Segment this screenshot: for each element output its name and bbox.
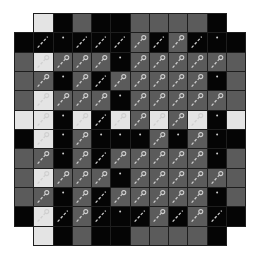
board-cell-gray[interactable] xyxy=(187,187,207,207)
board-cell-gray[interactable] xyxy=(14,148,34,168)
board-cell-black[interactable] xyxy=(53,187,73,207)
board-cell-gray[interactable] xyxy=(91,90,111,110)
board-cell-gray[interactable] xyxy=(72,187,92,207)
board-cell-gray[interactable] xyxy=(149,13,169,33)
board-cell-gray[interactable] xyxy=(130,148,150,168)
board-cell-black[interactable] xyxy=(110,168,130,188)
board-cell-black[interactable] xyxy=(53,110,73,130)
board-cell-gray[interactable] xyxy=(130,52,150,72)
board-cell-black[interactable] xyxy=(91,148,111,168)
board-cell-gray[interactable] xyxy=(149,206,169,226)
board-cell-black[interactable] xyxy=(33,32,53,52)
board-cell-black[interactable] xyxy=(207,71,227,91)
board-cell-black[interactable] xyxy=(207,226,227,246)
board-cell-light[interactable] xyxy=(110,110,130,130)
board-cell-gray[interactable] xyxy=(149,129,169,149)
board-cell-black[interactable] xyxy=(53,71,73,91)
board-cell-gray[interactable] xyxy=(53,168,73,188)
board-cell-black[interactable] xyxy=(91,187,111,207)
board-cell-gray[interactable] xyxy=(168,168,188,188)
board-cell-black[interactable] xyxy=(130,206,150,226)
board-cell-black[interactable] xyxy=(207,206,227,226)
board-cell-black[interactable] xyxy=(53,129,73,149)
board-cell-gray[interactable] xyxy=(187,52,207,72)
board-cell-light[interactable] xyxy=(33,110,53,130)
board-cell-black[interactable] xyxy=(110,226,130,246)
board-cell-black[interactable] xyxy=(110,90,130,110)
board-cell-gray[interactable] xyxy=(187,129,207,149)
board-cell-black[interactable] xyxy=(149,32,169,52)
board-cell-black[interactable] xyxy=(91,129,111,149)
board-cell-gray[interactable] xyxy=(149,52,169,72)
board-cell-light[interactable] xyxy=(187,110,207,130)
board-cell-black[interactable] xyxy=(14,32,34,52)
board-cell-gray[interactable] xyxy=(14,168,34,188)
board-cell-gray[interactable] xyxy=(33,187,53,207)
board-cell-gray[interactable] xyxy=(149,187,169,207)
board-cell-gray[interactable] xyxy=(226,187,246,207)
board-cell-gray[interactable] xyxy=(187,71,207,91)
board-cell-gray[interactable] xyxy=(33,71,53,91)
board-cell-gray[interactable] xyxy=(130,13,150,33)
board-cell-black[interactable] xyxy=(53,148,73,168)
board-cell-gray[interactable] xyxy=(72,90,92,110)
board-cell-black[interactable] xyxy=(110,129,130,149)
board-cell-light[interactable] xyxy=(149,110,169,130)
board-cell-black[interactable] xyxy=(91,13,111,33)
board-cell-gray[interactable] xyxy=(168,148,188,168)
board-cell-gray[interactable] xyxy=(14,187,34,207)
board-cell-black[interactable] xyxy=(91,32,111,52)
board-cell-gray[interactable] xyxy=(91,52,111,72)
board-cell-gray[interactable] xyxy=(149,90,169,110)
board-cell-gray[interactable] xyxy=(187,226,207,246)
board-cell-gray[interactable] xyxy=(33,148,53,168)
board-cell-gray[interactable] xyxy=(72,129,92,149)
board-cell-black[interactable] xyxy=(53,32,73,52)
board-cell-gray[interactable] xyxy=(149,148,169,168)
board-cell-gray[interactable] xyxy=(14,90,34,110)
board-cell-gray[interactable] xyxy=(110,71,130,91)
board-cell-black[interactable] xyxy=(207,187,227,207)
board-cell-gray[interactable] xyxy=(149,226,169,246)
board-cell-gray[interactable] xyxy=(149,168,169,188)
board-cell-gray[interactable] xyxy=(168,90,188,110)
board-cell-gray[interactable] xyxy=(226,168,246,188)
board-cell-light[interactable] xyxy=(226,110,246,130)
board-cell-gray[interactable] xyxy=(14,52,34,72)
board-cell-gray[interactable] xyxy=(207,52,227,72)
board-cell-light[interactable] xyxy=(33,226,53,246)
board-cell-gray[interactable] xyxy=(168,226,188,246)
board-cell-gray[interactable] xyxy=(168,187,188,207)
board-cell-gray[interactable] xyxy=(130,32,150,52)
board-cell-gray[interactable] xyxy=(72,13,92,33)
board-cell-black[interactable] xyxy=(53,13,73,33)
board-cell-black[interactable] xyxy=(72,32,92,52)
board-cell-light[interactable] xyxy=(14,110,34,130)
board-cell-light[interactable] xyxy=(33,52,53,72)
board-cell-black[interactable] xyxy=(130,129,150,149)
board-cell-light[interactable] xyxy=(72,110,92,130)
board-cell-light[interactable] xyxy=(33,206,53,226)
board-cell-gray[interactable] xyxy=(72,206,92,226)
board-cell-gray[interactable] xyxy=(72,52,92,72)
board-cell-light[interactable] xyxy=(33,13,53,33)
board-cell-black[interactable] xyxy=(110,32,130,52)
board-cell-gray[interactable] xyxy=(72,71,92,91)
board-cell-light[interactable] xyxy=(33,90,53,110)
board-cell-gray[interactable] xyxy=(130,168,150,188)
board-cell-gray[interactable] xyxy=(168,52,188,72)
board-cell-gray[interactable] xyxy=(226,90,246,110)
board-cell-black[interactable] xyxy=(168,206,188,226)
board-cell-black[interactable] xyxy=(91,226,111,246)
board-cell-black[interactable] xyxy=(207,148,227,168)
board-cell-gray[interactable] xyxy=(149,71,169,91)
board-cell-black[interactable] xyxy=(110,52,130,72)
board-cell-black[interactable] xyxy=(110,13,130,33)
board-cell-black[interactable] xyxy=(226,129,246,149)
board-cell-black[interactable] xyxy=(91,71,111,91)
board-cell-black[interactable] xyxy=(53,226,73,246)
board-cell-black[interactable] xyxy=(91,206,111,226)
board-cell-gray[interactable] xyxy=(168,13,188,33)
board-cell-gray[interactable] xyxy=(91,168,111,188)
board-cell-gray[interactable] xyxy=(130,90,150,110)
